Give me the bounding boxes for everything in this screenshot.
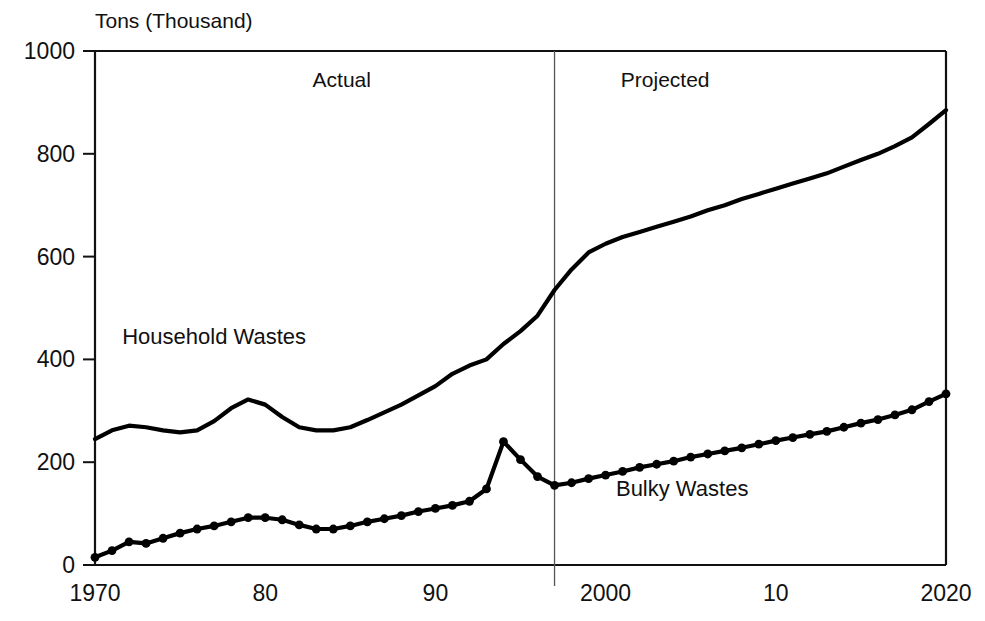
data-point	[533, 472, 542, 481]
data-point	[754, 440, 763, 449]
data-point	[108, 546, 117, 555]
data-point	[414, 507, 423, 516]
data-point	[567, 478, 576, 487]
data-point	[669, 457, 678, 466]
data-point	[380, 514, 389, 523]
data-point	[482, 485, 491, 494]
data-point	[635, 463, 644, 472]
x-axis-tick-labels: 197080902000102020	[69, 580, 971, 606]
x-tick-label-2010: 10	[763, 580, 789, 606]
data-point	[329, 525, 338, 534]
data-point	[159, 534, 168, 543]
line-chart-canvas: Tons (Thousand) 02004006008001000 197080…	[0, 0, 985, 621]
data-point	[397, 511, 406, 520]
data-point	[737, 443, 746, 452]
data-point	[925, 397, 934, 406]
data-point	[210, 522, 219, 531]
data-point	[363, 517, 372, 526]
y-tick-label-600: 600	[37, 244, 75, 270]
annotation-bulky-wastes: Bulky Wastes	[616, 476, 748, 501]
series-line	[95, 394, 946, 557]
y-tick-label-800: 800	[37, 141, 75, 167]
annotation-household-wastes: Household Wastes	[122, 324, 306, 349]
data-point	[550, 481, 559, 490]
data-point	[618, 467, 627, 476]
data-point	[601, 471, 610, 480]
y-axis-title: Tons (Thousand)	[95, 9, 253, 32]
data-point	[125, 537, 134, 546]
data-point	[176, 529, 185, 538]
data-point	[942, 389, 951, 398]
annotation-projected: Projected	[621, 68, 710, 91]
y-axis-ticks	[83, 51, 95, 565]
data-point	[822, 427, 831, 436]
data-point	[465, 497, 474, 506]
series-household-wastes	[95, 110, 946, 439]
data-point	[908, 405, 917, 414]
x-tick-label-1980: 80	[252, 580, 278, 606]
chart-annotations: ActualProjectedHousehold WastesBulky Was…	[122, 68, 748, 501]
data-point	[805, 430, 814, 439]
y-tick-label-200: 200	[37, 449, 75, 475]
data-point	[584, 474, 593, 483]
data-point	[891, 411, 900, 420]
data-point	[771, 436, 780, 445]
data-point	[516, 455, 525, 464]
data-point	[431, 504, 440, 513]
annotation-actual: Actual	[313, 68, 371, 91]
data-point	[261, 513, 270, 522]
plot-frame	[95, 51, 946, 565]
data-point	[193, 525, 202, 534]
data-point	[312, 525, 321, 534]
data-point	[499, 437, 508, 446]
data-point	[839, 423, 848, 432]
x-tick-label-1990: 90	[423, 580, 449, 606]
data-point	[788, 433, 797, 442]
x-tick-label-1970: 1970	[69, 580, 120, 606]
data-point	[720, 446, 729, 455]
data-point	[652, 460, 661, 469]
y-tick-label-0: 0	[62, 552, 75, 578]
x-tick-label-2020: 2020	[920, 580, 971, 606]
data-point	[91, 553, 100, 562]
series-line	[95, 110, 946, 439]
data-point	[346, 522, 355, 531]
y-axis-tick-labels: 02004006008001000	[24, 38, 75, 578]
data-point	[448, 501, 457, 510]
data-point	[874, 415, 883, 424]
data-point	[857, 419, 866, 428]
data-point	[295, 521, 304, 530]
data-point	[686, 453, 695, 462]
data-point	[227, 517, 236, 526]
y-tick-label-400: 400	[37, 346, 75, 372]
y-tick-label-1000: 1000	[24, 38, 75, 64]
x-tick-label-2000: 2000	[580, 580, 631, 606]
chart-figure: Tons (Thousand) 02004006008001000 197080…	[0, 0, 985, 621]
data-point	[278, 515, 287, 524]
data-point	[703, 450, 712, 459]
data-point	[142, 539, 151, 548]
data-point	[244, 513, 253, 522]
